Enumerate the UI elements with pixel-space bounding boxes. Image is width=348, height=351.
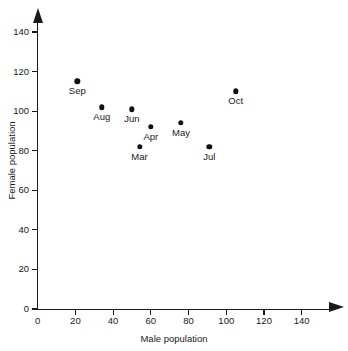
data-point-label: Apr bbox=[143, 132, 158, 142]
data-point-marker bbox=[75, 79, 80, 84]
x-axis-tick-label: 0 bbox=[35, 316, 40, 326]
x-axis-arrow-icon bbox=[329, 302, 344, 312]
x-axis-tick-label: 140 bbox=[294, 316, 310, 326]
x-axis-tick-label: 20 bbox=[70, 316, 81, 326]
x-axis-tick-label: 100 bbox=[218, 316, 234, 326]
y-axis-tick bbox=[32, 269, 38, 270]
x-axis-tick-label: 80 bbox=[183, 316, 194, 326]
y-axis-tick bbox=[32, 308, 38, 309]
y-axis-tick-label: 80 bbox=[18, 146, 29, 156]
data-point-label: May bbox=[172, 128, 190, 138]
y-axis-title: Female population bbox=[6, 106, 17, 216]
y-axis-tick-label: 140 bbox=[13, 27, 29, 37]
y-axis-line bbox=[37, 22, 38, 310]
x-axis-tick-label: 40 bbox=[108, 316, 119, 326]
data-point-label: Jun bbox=[124, 114, 139, 124]
y-axis-tick bbox=[32, 111, 38, 112]
data-point-marker bbox=[129, 106, 134, 111]
data-point-marker bbox=[178, 120, 183, 125]
data-point-marker bbox=[148, 124, 153, 129]
y-axis-tick-label: 0 bbox=[24, 304, 29, 314]
scatter-chart: 020406080100120140 020406080100120140 Se… bbox=[0, 0, 348, 351]
y-axis-tick bbox=[32, 31, 38, 32]
data-point-label: Oct bbox=[228, 96, 243, 106]
data-point-label: Aug bbox=[93, 112, 110, 122]
y-axis-tick-label: 60 bbox=[18, 185, 29, 195]
y-axis-tick-label: 20 bbox=[18, 264, 29, 274]
data-point-label: Jul bbox=[203, 152, 215, 162]
data-point-marker bbox=[207, 144, 212, 149]
x-axis-tick-label: 120 bbox=[256, 316, 272, 326]
y-axis-tick bbox=[32, 71, 38, 72]
x-axis-line bbox=[37, 309, 330, 310]
data-point-label: Mar bbox=[131, 152, 147, 162]
y-axis-tick bbox=[32, 229, 38, 230]
y-axis-tick bbox=[32, 150, 38, 151]
data-point-marker bbox=[99, 104, 104, 109]
x-axis-title: Male population bbox=[0, 333, 348, 344]
data-point-marker bbox=[137, 144, 142, 149]
x-axis-tick-label: 60 bbox=[146, 316, 157, 326]
data-point-label: Sep bbox=[69, 86, 86, 96]
y-axis-tick-label: 40 bbox=[18, 225, 29, 235]
data-point-marker bbox=[233, 89, 238, 94]
y-axis-tick bbox=[32, 190, 38, 191]
y-axis-arrow-icon bbox=[33, 8, 43, 23]
y-axis-tick-label: 120 bbox=[13, 67, 29, 77]
